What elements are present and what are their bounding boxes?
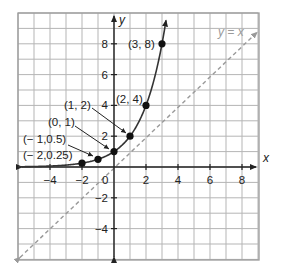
origin-label: 0 [102, 174, 108, 186]
y-tick-label: 4 [102, 99, 109, 111]
point-label-0-1: (0, 1) [48, 116, 75, 128]
y-tick-label: 2 [102, 130, 108, 142]
x-tick-label: 4 [175, 174, 182, 186]
chart: y = x x y −4−22468 −4−22468 0 (3, 8) (2,… [0, 0, 291, 276]
data-point [126, 133, 133, 140]
y-tick-label: 6 [102, 69, 108, 81]
x-axis-label: x [262, 151, 270, 165]
y-tick-label: 8 [102, 38, 108, 50]
data-point [142, 102, 149, 109]
point-labels: (3, 8) (2, 4) (1, 2) (0, 1) (− 1,0.5) (−… [23, 38, 155, 161]
y-tick-label: −2 [95, 192, 108, 204]
data-point [94, 156, 101, 163]
x-tick-label: 2 [143, 174, 149, 186]
x-tick-label: 8 [239, 174, 245, 186]
y-axis-label: y [118, 13, 126, 27]
point-label-neg2-0.25: (− 2,0.25) [23, 149, 73, 161]
data-point [158, 40, 165, 47]
x-tick-label: −4 [43, 174, 57, 186]
data-point [110, 148, 117, 155]
data-point [78, 160, 85, 167]
point-label-neg1-0.5: (− 1,0.5) [23, 133, 66, 145]
point-label-1-2: (1, 2) [64, 99, 91, 111]
point-label-2-4: (2, 4) [116, 93, 143, 105]
x-tick-label: 6 [207, 174, 213, 186]
y-tick-label: −4 [95, 223, 109, 235]
x-tick-label: −2 [75, 174, 88, 186]
reference-line-label: y = x [217, 25, 245, 39]
point-label-3-8: (3, 8) [128, 38, 155, 50]
